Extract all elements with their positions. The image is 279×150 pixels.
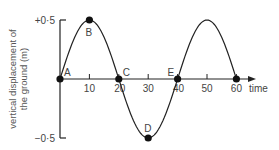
point-label-d: D bbox=[144, 123, 151, 134]
point-label-c: C bbox=[123, 67, 130, 78]
point-label-e: E bbox=[168, 67, 175, 78]
x-tick-label: 10 bbox=[84, 83, 96, 94]
point-label-b: B bbox=[85, 27, 92, 38]
y-axis-label-line-1: vertical displacement of bbox=[7, 9, 18, 149]
x-tick-label: 50 bbox=[201, 83, 213, 94]
y-axis-label-line-2: the ground (m) bbox=[18, 9, 29, 149]
x-axis-arrow-icon bbox=[248, 76, 256, 82]
displacement-chart: vertical displacement of the ground (m) … bbox=[0, 0, 279, 150]
plot-area: +0·5−0·5102030405060timeABCDE bbox=[0, 0, 279, 150]
data-point-c bbox=[115, 75, 122, 82]
y-tick-label: +0·5 bbox=[35, 15, 56, 26]
y-tick-label: −0·5 bbox=[35, 133, 56, 144]
data-point-e bbox=[174, 75, 181, 82]
y-axis-label: vertical displacement of the ground (m) bbox=[7, 9, 29, 149]
x-tick-label: 60 bbox=[231, 83, 243, 94]
data-point-b bbox=[86, 16, 93, 23]
data-point-d bbox=[145, 134, 152, 141]
x-tick-label: 30 bbox=[143, 83, 155, 94]
point-label-a: A bbox=[64, 67, 71, 78]
x-axis-label: time bbox=[249, 83, 268, 94]
data-point-a bbox=[56, 75, 63, 82]
data-point bbox=[233, 75, 240, 82]
